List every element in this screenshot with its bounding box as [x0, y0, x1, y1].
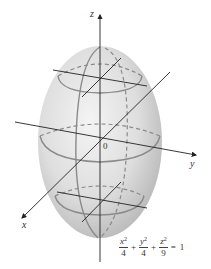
y-exponent: 2 [144, 236, 147, 242]
equals-sign: = [171, 242, 176, 252]
fraction-y: y2 4 [139, 236, 148, 258]
z-denominator: 9 [161, 248, 166, 258]
origin-label: 0 [103, 141, 108, 151]
fraction-z: z2 9 [159, 236, 168, 258]
ellipsoid-equation: x2 4 + y2 4 + z2 9 = 1 [118, 236, 186, 258]
ellipsoid-figure [0, 0, 211, 269]
fraction-x: x2 4 [119, 236, 128, 258]
plus-sign: + [151, 242, 156, 252]
equation-rhs: 1 [180, 242, 185, 252]
plus-sign: + [131, 242, 136, 252]
x-axis-label: x [22, 219, 26, 230]
z-exponent: 2 [164, 236, 167, 242]
y-denominator: 4 [141, 248, 146, 258]
z-axis-label: z [90, 8, 94, 19]
x-denominator: 4 [121, 248, 126, 258]
x-exponent: 2 [124, 236, 127, 242]
y-axis-label: y [190, 158, 194, 169]
